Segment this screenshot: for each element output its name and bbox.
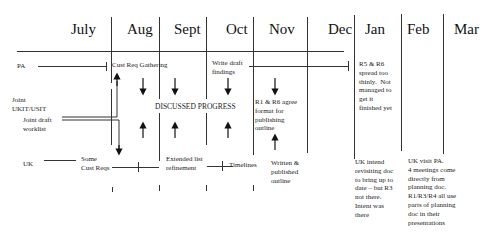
arrows-layer: [0, 0, 492, 239]
joint-draft-connector: [62, 81, 119, 150]
